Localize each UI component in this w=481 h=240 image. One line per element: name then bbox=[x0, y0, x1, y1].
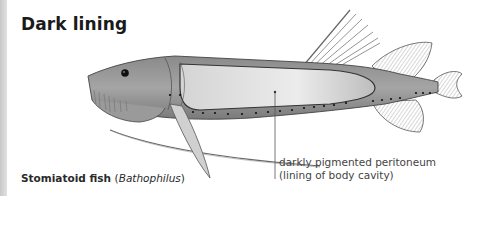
caption-scientific-name: Bathophilus bbox=[119, 172, 181, 184]
fish-eye bbox=[121, 69, 129, 77]
annotation-line-2: (lining of body cavity) bbox=[279, 169, 436, 182]
caption-common-name: Stomiatoid fish bbox=[21, 172, 111, 184]
figure-caption: Stomiatoid fish (Bathophilus) bbox=[21, 172, 185, 184]
peritoneum-annotation: darkly pigmented peritoneum (lining of b… bbox=[279, 156, 436, 182]
caption-close-paren: ) bbox=[181, 172, 185, 184]
annotation-line-1: darkly pigmented peritoneum bbox=[279, 156, 436, 169]
